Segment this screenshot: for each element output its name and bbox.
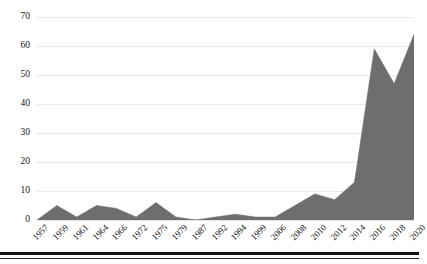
x-tick-label-1992: 1992 — [210, 223, 229, 242]
x-tick-label-1987: 1987 — [190, 223, 209, 242]
x-tick-label-2018: 2018 — [388, 223, 407, 242]
plot-area — [37, 17, 414, 220]
x-axis: 1957195919611964196619721975197919871992… — [37, 221, 414, 253]
x-tick-label-1957: 1957 — [31, 223, 50, 242]
x-tick-label-2014: 2014 — [349, 223, 368, 242]
y-tick-label-30: 30 — [21, 128, 31, 138]
bottom-rule-secondary — [0, 258, 419, 259]
y-tick-label-50: 50 — [21, 70, 31, 80]
x-tick-label-2010: 2010 — [309, 223, 328, 242]
y-tick-label-20: 20 — [21, 157, 31, 167]
bottom-rule — [0, 252, 419, 255]
y-tick-label-70: 70 — [21, 12, 31, 22]
x-tick-label-1959: 1959 — [51, 223, 70, 242]
x-tick-label-2020: 2020 — [408, 223, 427, 242]
x-tick-label-2012: 2012 — [329, 223, 348, 242]
x-tick-label-1975: 1975 — [150, 223, 169, 242]
x-tick-label-1994: 1994 — [230, 223, 249, 242]
x-tick-label-1966: 1966 — [111, 223, 130, 242]
y-axis: 010203040506070 — [0, 0, 37, 220]
x-tick-label-1979: 1979 — [170, 223, 189, 242]
y-tick-label-40: 40 — [21, 99, 31, 109]
x-tick-label-1999: 1999 — [250, 223, 269, 242]
x-tick-label-1964: 1964 — [91, 223, 110, 242]
x-tick-label-1961: 1961 — [71, 223, 90, 242]
x-tick-label-2016: 2016 — [369, 223, 388, 242]
x-tick-label-2006: 2006 — [269, 223, 288, 242]
y-tick-label-10: 10 — [21, 186, 31, 196]
y-tick-label-60: 60 — [21, 41, 31, 51]
x-tick-label-2008: 2008 — [289, 223, 308, 242]
x-tick-label-1972: 1972 — [130, 223, 149, 242]
area-series — [37, 17, 414, 220]
y-tick-label-0: 0 — [25, 215, 30, 225]
